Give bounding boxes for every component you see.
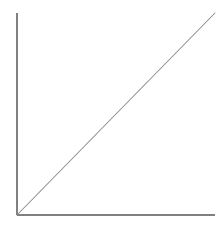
chart-container: Line chart with a single straight diagon… bbox=[0, 0, 223, 225]
data-series-line bbox=[17, 13, 215, 215]
plot-area bbox=[0, 0, 223, 225]
